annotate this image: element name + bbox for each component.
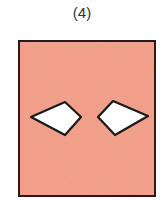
figure-canvas (0, 0, 164, 212)
